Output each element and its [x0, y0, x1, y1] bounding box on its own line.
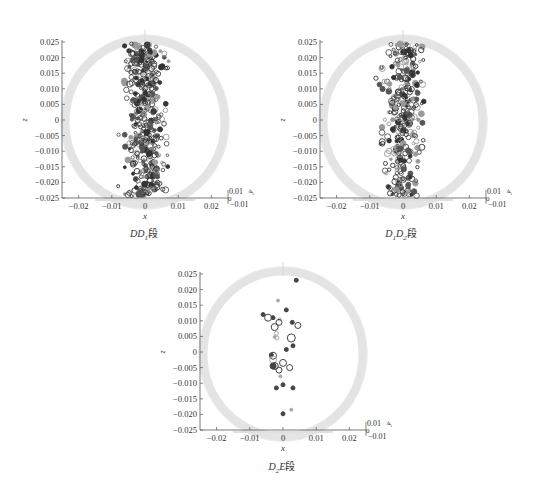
y-tick-label: −0.005: [293, 131, 317, 141]
x-tick-label: 0.02: [342, 433, 357, 443]
y-tick-label: 0: [55, 115, 59, 125]
x-tick-label: −0.02: [207, 433, 227, 443]
scatter-plot-dd1: 0.0250.0200.0150.0100.0050−0.005−0.010−0…: [0, 0, 270, 240]
scatter-plot-d1d2: 0.0250.0200.0150.0100.0050−0.005−0.010−0…: [258, 0, 535, 240]
y-tick-label: −0.010: [35, 146, 59, 156]
plot-area: 0.0250.0200.0150.0100.0050−0.005−0.010−0…: [0, 0, 270, 225]
y-tick-label: −0.020: [173, 409, 197, 419]
axes: 0.0250.0200.0150.0100.0050−0.005−0.010−0…: [158, 269, 393, 453]
x-tick-label: 0.02: [204, 201, 219, 211]
x-tick-label: 0.01: [171, 201, 186, 211]
x-tick-label: 0.02: [462, 201, 477, 211]
x-tick-label: 0.01: [309, 433, 324, 443]
x-tick-label: 0: [281, 433, 285, 443]
y-tick-label: −0.010: [293, 146, 317, 156]
z-axis-label: z: [158, 350, 167, 355]
y-tick-label: 0.005: [298, 99, 317, 109]
x-tick-label: −0.02: [327, 201, 347, 211]
y-tick-label: −0.015: [35, 162, 59, 172]
data-points: [117, 42, 170, 199]
caption-d2e: D2E段: [222, 458, 342, 475]
y-tick-label: 0.025: [40, 37, 59, 47]
y-tick-label: 0.005: [40, 99, 59, 109]
y-tick-label: 0: [313, 115, 317, 125]
scatter-plot-d2e: 0.0250.0200.0150.0100.0050−0.005−0.010−0…: [138, 232, 408, 482]
x-tick-label: 0: [401, 201, 405, 211]
y-tick-label: −0.025: [35, 193, 59, 203]
y-tick-label: 0.020: [298, 53, 317, 63]
plot-area: 0.0250.0200.0150.0100.0050−0.005−0.010−0…: [138, 232, 408, 457]
y-tick-label: 0.015: [40, 68, 59, 78]
y-depth-tick: −0.01: [368, 432, 387, 441]
y-tick-label: −0.025: [293, 193, 317, 203]
y-tick-label: −0.020: [293, 177, 317, 187]
y-tick-label: −0.005: [173, 363, 197, 373]
plot-area: 0.0250.0200.0150.0100.0050−0.005−0.010−0…: [258, 0, 535, 225]
y-tick-label: −0.020: [35, 177, 59, 187]
y-tick-label: 0.020: [178, 285, 197, 295]
y-tick-label: −0.005: [35, 131, 59, 141]
data-points: [261, 278, 301, 416]
y-tick-label: −0.010: [173, 378, 197, 388]
y-tick-label: 0.015: [298, 68, 317, 78]
y-tick-label: 0.025: [298, 37, 317, 47]
x-axis-label: x: [400, 211, 405, 221]
y-tick-label: −0.015: [293, 162, 317, 172]
x-tick-label: −0.01: [240, 433, 260, 443]
y-depth-label: y: [245, 188, 255, 196]
x-tick-label: 0.01: [429, 201, 444, 211]
y-depth-label: y: [383, 420, 393, 428]
y-depth-label: y: [503, 188, 513, 196]
y-tick-label: 0: [193, 347, 197, 357]
y-tick-label: −0.015: [173, 394, 197, 404]
y-tick-label: 0.005: [178, 331, 197, 341]
y-tick-label: 0.010: [298, 84, 317, 94]
z-axis-label: z: [278, 118, 287, 123]
data-points: [374, 41, 426, 199]
y-tick-label: 0.020: [40, 53, 59, 63]
y-tick-label: 0.015: [178, 300, 197, 310]
y-depth-tick: −0.01: [230, 200, 249, 209]
x-axis-label: x: [142, 211, 147, 221]
y-tick-label: 0.025: [178, 269, 197, 279]
x-tick-label: −0.01: [360, 201, 380, 211]
y-tick-label: −0.025: [173, 425, 197, 435]
x-tick-label: −0.02: [69, 201, 89, 211]
x-tick-label: −0.01: [102, 201, 122, 211]
y-depth-tick: −0.01: [488, 200, 507, 209]
y-tick-label: 0.010: [40, 84, 59, 94]
z-axis-label: z: [20, 118, 29, 123]
x-axis-label: x: [280, 443, 285, 453]
y-tick-label: 0.010: [178, 316, 197, 326]
x-tick-label: 0: [143, 201, 147, 211]
